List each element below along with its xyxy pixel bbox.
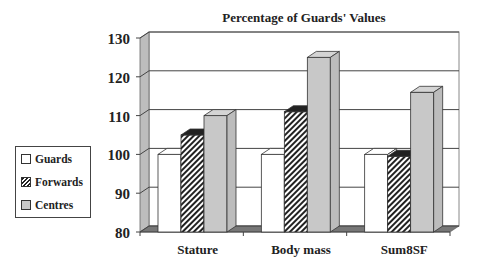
bar-side xyxy=(227,110,236,232)
guards-swatch-icon xyxy=(21,154,31,164)
bar-forwards xyxy=(284,112,307,232)
legend-item-centres: Centres xyxy=(21,198,73,212)
ytick-label: 120 xyxy=(108,70,131,86)
bar-centres xyxy=(204,116,227,232)
bar-side xyxy=(434,86,443,232)
bar-guards xyxy=(261,154,284,232)
ytick-label: 130 xyxy=(108,31,131,47)
xtick-label: Stature xyxy=(177,242,218,257)
xtick-label: Body mass xyxy=(271,242,331,257)
bar-centres xyxy=(307,57,330,232)
side-wall xyxy=(140,32,149,232)
bar-chart-plot: 8090100110120130StatureBody massSum8SF xyxy=(0,0,478,270)
ytick-label: 110 xyxy=(108,109,130,125)
legend-item-guards: Guards xyxy=(21,152,72,166)
bar-guards xyxy=(158,154,181,232)
bar-forwards xyxy=(388,156,411,232)
ytick-label: 90 xyxy=(115,186,130,202)
ytick-label: 80 xyxy=(115,225,130,241)
bar-side xyxy=(330,51,339,232)
centres-swatch-icon xyxy=(21,200,31,210)
ytick-label: 100 xyxy=(108,147,131,163)
bar-centres xyxy=(411,92,434,232)
xtick-label: Sum8SF xyxy=(381,242,428,257)
bar-guards xyxy=(365,154,388,232)
legend-item-forwards: Forwards xyxy=(21,175,83,189)
forwards-swatch-icon xyxy=(21,177,31,187)
bar-forwards xyxy=(181,135,204,232)
legend: Guards Forwards Centres xyxy=(15,146,91,218)
